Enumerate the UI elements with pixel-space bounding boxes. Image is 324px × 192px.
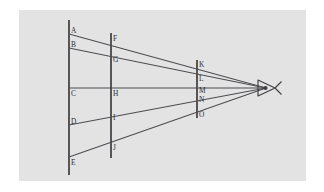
point-label-F: F — [113, 34, 117, 43]
picture-plane-group — [69, 20, 197, 175]
eye-pupil — [263, 86, 267, 90]
ray-E — [69, 88, 266, 157]
left-plane-labels: A B C D E — [71, 26, 77, 167]
point-label-O: O — [199, 110, 205, 119]
ray-D — [69, 88, 266, 125]
point-label-J: J — [113, 143, 116, 152]
ray-group — [69, 34, 266, 157]
point-label-L: L — [199, 74, 204, 83]
ray-B — [69, 48, 266, 88]
point-label-I: I — [113, 113, 116, 122]
point-label-G: G — [113, 55, 119, 64]
point-label-E: E — [71, 158, 76, 167]
point-label-K: K — [199, 60, 205, 69]
point-label-N: N — [199, 95, 205, 104]
point-label-C: C — [71, 89, 76, 98]
point-label-D: D — [71, 117, 77, 126]
point-label-A: A — [71, 26, 77, 35]
ray-A — [69, 34, 266, 88]
point-label-H: H — [113, 89, 119, 98]
middle-plane-labels: F G H I J — [113, 34, 119, 152]
right-plane-labels: K L M N O — [199, 60, 206, 119]
eye-tail — [275, 82, 282, 95]
perspective-diagram: A B C D E F G H I J K L M N O — [0, 0, 324, 192]
point-label-M: M — [199, 86, 206, 95]
figure-root: A B C D E F G H I J K L M N O — [0, 0, 324, 192]
point-label-B: B — [71, 40, 76, 49]
